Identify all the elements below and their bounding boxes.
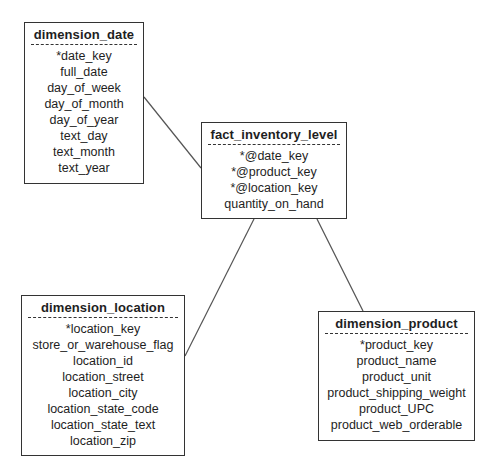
entity-dimension-date[interactable]: dimension_date *date_key full_date day_o… [24,22,144,184]
entity-title: dimension_date [31,27,137,45]
field-date-key: *date_key [29,48,139,64]
field-store-or-warehouse-flag: store_or_warehouse_flag [26,337,180,353]
entity-dimension-location[interactable]: dimension_location *location_key store_o… [21,295,185,456]
field-day-of-year: day_of_year [29,112,139,128]
field-location-key-fk: *@location_key [206,180,342,196]
relationship-line-fact-to-location [185,219,254,356]
field-location-street: location_street [26,369,180,385]
field-location-key: *location_key [26,321,180,337]
field-day-of-month: day_of_month [29,96,139,112]
field-location-id: location_id [26,353,180,369]
entity-dimension-product[interactable]: dimension_product *product_key product_n… [318,311,475,441]
field-product-key: *product_key [323,337,470,353]
field-product-web-orderable: product_web_orderable [323,417,470,433]
entity-fact-inventory-level[interactable]: fact_inventory_level *@date_key *@produc… [201,122,347,219]
field-product-key-fk: *@product_key [206,164,342,180]
field-text-year: text_year [29,160,139,176]
entity-title: fact_inventory_level [208,127,340,145]
field-location-state-code: location_state_code [26,401,180,417]
entity-field-list: *product_key product_name product_unit p… [323,337,470,433]
field-text-month: text_month [29,144,139,160]
relationship-line-fact-to-product [317,219,363,311]
entity-field-list: *@date_key *@product_key *@location_key … [206,148,342,212]
entity-field-list: *location_key store_or_warehouse_flag lo… [26,321,180,449]
entity-title: dimension_location [28,300,178,318]
field-location-state-text: location_state_text [26,417,180,433]
relationship-line-fact-to-date [144,97,201,168]
field-text-day: text_day [29,128,139,144]
entity-title: dimension_product [325,316,468,334]
field-full-date: full_date [29,64,139,80]
field-location-city: location_city [26,385,180,401]
field-product-shipping-weight: product_shipping_weight [323,385,470,401]
field-day-of-week: day_of_week [29,80,139,96]
field-product-upc: product_UPC [323,401,470,417]
field-product-name: product_name [323,353,470,369]
field-product-unit: product_unit [323,369,470,385]
field-quantity-on-hand: quantity_on_hand [206,196,342,212]
entity-field-list: *date_key full_date day_of_week day_of_m… [29,48,139,176]
field-location-zip: location_zip [26,433,180,449]
field-date-key-fk: *@date_key [206,148,342,164]
